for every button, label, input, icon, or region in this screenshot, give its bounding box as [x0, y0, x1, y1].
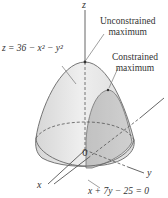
- z-axis-label: z: [82, 0, 86, 10]
- constrained-max-label: Constrained maximum: [112, 52, 158, 74]
- constrained-line1: Constrained: [112, 52, 158, 63]
- constrained-max-point: [107, 89, 109, 91]
- unconstrained-max-label: Unconstrained maximum: [100, 16, 155, 38]
- y-axis-label: y: [147, 168, 151, 178]
- constraint-line: [140, 98, 164, 118]
- constrained-line2: maximum: [112, 63, 158, 74]
- unconstrained-max-point: [84, 61, 87, 64]
- x-axis-label: x: [37, 180, 41, 190]
- y-axis-line: [128, 167, 144, 173]
- constraint-equation-label: x + 7y − 25 = 0: [88, 187, 149, 197]
- unconstrained-leader: [86, 34, 104, 60]
- paraboloid-figure: z z = 36 − x² − y² Unconstrained maximum…: [0, 0, 168, 198]
- surface-equation-label: z = 36 − x² − y²: [2, 44, 63, 54]
- unconstrained-line1: Unconstrained: [100, 16, 155, 27]
- origin-label: 0: [82, 149, 88, 158]
- unconstrained-line2: maximum: [100, 27, 155, 38]
